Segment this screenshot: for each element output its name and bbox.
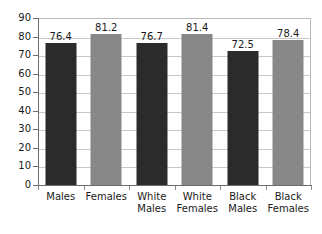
bar-slot: 76.4 [38,18,84,185]
bar-value-label: 76.7 [141,31,163,42]
y-tick-mark [33,18,38,19]
y-tick-mark [33,92,38,93]
y-tick-label: 0 [1,180,31,190]
category-label-line: Black [220,191,266,203]
bar-slot: 76.7 [129,18,175,185]
bars-layer: 76.4 81.2 76.7 81.4 72.5 78.4 [38,18,311,185]
bar-slot: 72.5 [220,18,266,185]
y-tick-label: 80 [1,32,31,42]
category-label-black-males: Black Males [220,191,266,215]
x-tick-mark [220,186,221,190]
category-labels: Males Females White Males White Females … [38,191,311,231]
x-tick-mark [129,186,130,190]
bar-black-males[interactable] [227,51,258,186]
y-tick-label: 20 [1,143,31,153]
x-tick-mark [266,186,267,190]
category-label-males: Males [38,191,84,203]
category-label-line: Males [220,203,266,215]
category-label-white-females: White Females [175,191,221,215]
bar-white-males[interactable] [136,43,167,185]
y-tick-label: 60 [1,69,31,79]
category-label-line: Males [129,203,175,215]
bar-value-label: 78.4 [277,28,299,39]
y-tick-mark [33,111,38,112]
bar-value-label: 81.2 [95,22,117,33]
y-tick-label: 70 [1,50,31,60]
category-label-line: Males [38,191,84,203]
category-label-line: Females [84,191,130,203]
bar-females[interactable] [91,34,122,185]
bar-value-label: 76.4 [50,31,72,42]
y-tick-mark [33,37,38,38]
bar-white-females[interactable] [182,34,213,185]
bar-chart: 76.4 81.2 76.7 81.4 72.5 78.4 [0,0,322,234]
category-label-line: White [129,191,175,203]
bar-slot: 78.4 [266,18,312,185]
category-label-line: Females [266,203,312,215]
x-tick-mark [84,186,85,190]
y-tick-label: 30 [1,124,31,134]
category-label-line: Females [175,203,221,215]
category-label-white-males: White Males [129,191,175,215]
y-tick-mark [33,129,38,130]
bar-value-label: 81.4 [186,22,208,33]
category-label-black-females: Black Females [266,191,312,215]
x-tick-mark [38,186,39,190]
bar-males[interactable] [45,43,76,185]
x-tick-mark [175,186,176,190]
y-tick-mark [33,166,38,167]
bar-slot: 81.2 [84,18,130,185]
y-tick-mark [33,55,38,56]
bar-black-females[interactable] [273,40,304,185]
y-tick-label: 50 [1,87,31,97]
category-label-females: Females [84,191,130,203]
y-tick-label: 40 [1,106,31,116]
x-tick-mark [311,186,312,190]
y-axis-line [38,18,39,186]
y-tick-mark [33,74,38,75]
y-tick-mark [33,148,38,149]
y-tick-label: 10 [1,161,31,171]
y-tick-label: 90 [1,13,31,23]
bar-slot: 81.4 [175,18,221,185]
category-label-line: White [175,191,221,203]
bar-value-label: 72.5 [232,39,254,50]
category-label-line: Black [266,191,312,203]
